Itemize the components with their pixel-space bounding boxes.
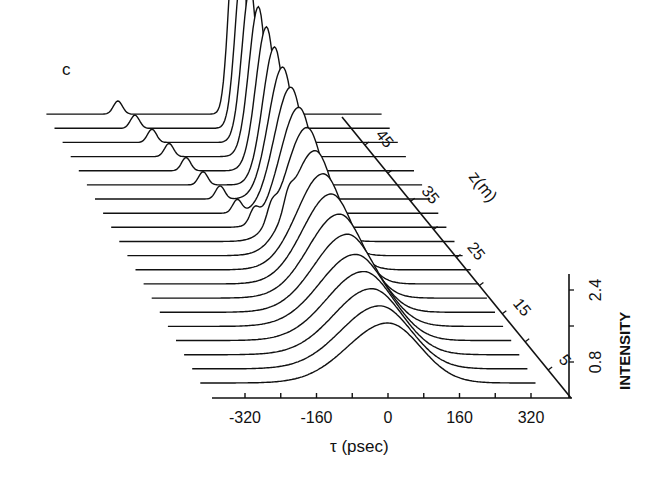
intensity-axis-title: INTENSITY	[616, 312, 633, 390]
z-tick-label: 25	[464, 239, 488, 264]
tau-tick-label: 0	[384, 409, 393, 426]
pulse-traces	[46, 0, 535, 383]
tau-axis-title: τ (psec)	[330, 437, 389, 456]
z-tick	[479, 283, 483, 286]
intensity-ticks: 0.82.4	[569, 279, 604, 373]
pulse-trace	[200, 323, 535, 383]
z-tick-label: 45	[373, 126, 397, 151]
z-tick-label: 15	[510, 295, 534, 320]
z-tick-label: 35	[418, 182, 442, 207]
z-tick	[525, 339, 529, 342]
pulse-trace	[46, 0, 381, 114]
intensity-tick-label: 0.8	[587, 351, 604, 373]
tau-tick-label: -160	[300, 409, 332, 426]
intensity-tick-label: 2.4	[587, 279, 604, 301]
tau-tick-label: 160	[446, 409, 473, 426]
tau-tick-label: -320	[229, 409, 261, 426]
z-tick	[502, 311, 506, 314]
panel-label: c	[62, 60, 71, 79]
waterfall-chart: -320-1600160320 515253545 0.82.4 c τ (ps…	[0, 0, 661, 483]
tau-tick-label: 320	[518, 409, 545, 426]
z-axis-title: z(m)	[465, 168, 501, 206]
z-tick	[548, 367, 552, 370]
z-tick-label: 5	[556, 351, 575, 369]
